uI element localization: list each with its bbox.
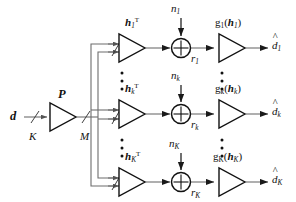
output-subscript-K: K <box>278 179 283 187</box>
output-symbol-d-K: ^d <box>272 173 278 185</box>
ellipsis-dot <box>221 72 224 75</box>
detector-label-K: gK(hK) <box>213 151 242 164</box>
received-label-k: rk <box>191 119 199 132</box>
detector-label-k: gk(hk) <box>215 83 241 96</box>
block-diagram-figure: d K P M h1T n1 r1 g1(h1) ^d1 hkT nk rk g… <box>0 0 296 202</box>
bus-rail-outer-down <box>91 117 116 186</box>
input-signal-label-d: d <box>10 110 16 123</box>
ellipsis-dot <box>121 88 124 91</box>
ellipsis-dot <box>121 80 124 83</box>
output-label-K: ^dK <box>272 174 282 187</box>
output-subscript-1: 1 <box>278 45 282 53</box>
received-subscript-K: K <box>195 192 200 200</box>
channel-triangle-k <box>119 100 145 128</box>
received-label-K: rK <box>191 187 200 200</box>
ellipsis-dot <box>221 139 224 142</box>
ellipsis-dot <box>121 72 124 75</box>
output-hat-accent-k: ^ <box>273 98 278 108</box>
ellipsis-dot <box>121 139 124 142</box>
detector-paren-close-1: ) <box>238 16 242 28</box>
detector-triangle-1 <box>219 34 245 62</box>
output-label-k: ^dk <box>272 106 281 119</box>
detector-triangle-K <box>219 168 245 196</box>
output-hat-accent-K: ^ <box>273 166 278 176</box>
precoder-label-P: P <box>58 88 66 101</box>
input-stage <box>24 103 98 131</box>
channel-superscript-T-1: T <box>135 16 139 24</box>
output-symbol-d-1: ^d <box>272 39 278 51</box>
channel-triangle-K <box>119 168 145 196</box>
output-hat-accent-1: ^ <box>273 32 278 42</box>
channel-triangle-1 <box>119 34 145 62</box>
ellipsis-dot <box>121 147 124 150</box>
detector-triangle-k <box>219 100 245 128</box>
noise-label-K: nK <box>169 138 179 151</box>
received-subscript-k: k <box>195 124 198 132</box>
precoder-triangle-P <box>50 103 76 131</box>
bus-rail-inner-up <box>98 52 116 117</box>
diagram-vector-layer <box>0 0 296 202</box>
detector-paren-close-K: ) <box>238 150 242 162</box>
detector-label-1: g1(h1) <box>215 17 241 30</box>
detector-paren-close-k: ) <box>237 82 241 94</box>
channel-label-1: h1T <box>125 17 139 30</box>
channel-superscript-T-k: T <box>134 82 138 90</box>
bus-rail-inner-down <box>98 117 116 178</box>
output-label-1: ^d1 <box>272 40 281 53</box>
precoder-out-dimension-label-M: M <box>80 131 89 142</box>
noise-subscript-1: 1 <box>177 8 181 16</box>
noise-subscript-K: K <box>175 143 180 151</box>
channel-label-k: hkT <box>125 83 139 96</box>
input-dimension-label-K: K <box>29 131 36 142</box>
received-label-1: r1 <box>191 53 199 66</box>
fanout-arrowheads <box>108 42 120 190</box>
output-symbol-d-k: ^d <box>272 105 278 117</box>
channel-label-K: hKT <box>125 151 140 164</box>
fanout-bus <box>91 44 116 186</box>
received-subscript-1: 1 <box>195 58 199 66</box>
noise-subscript-k: k <box>177 75 180 83</box>
ellipsis-dot <box>121 155 124 158</box>
noise-label-k: nk <box>171 70 180 83</box>
noise-label-1: n1 <box>171 3 180 16</box>
channel-superscript-T-K: T <box>136 150 140 158</box>
